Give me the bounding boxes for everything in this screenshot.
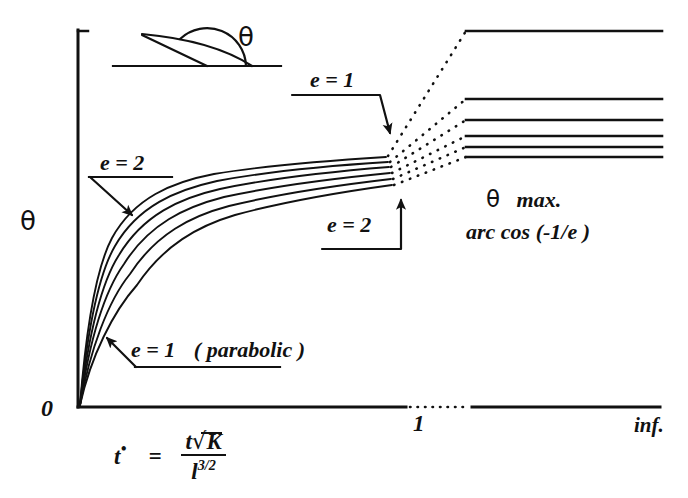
dotted-link-e-1 [388,31,466,156]
theta-max-asymptotes [466,31,662,157]
radical-bar [201,432,222,434]
x-tick-one-label: 1 [413,412,425,435]
orbital-angle-figure: θ θ 0 1 inf. e = 2 e = 1 ( parabolic ) e… [0,0,688,498]
asymptote-continuation-dots [388,31,466,185]
x-axis-formula-fraction: t√K l3/2 [181,430,225,483]
dotted-link-e-1-4 [391,120,466,167]
leader-upper-left-e2-arrow [90,177,132,215]
x-axis-formula-star: • [120,439,126,459]
x-axis-formula: t• = t√K l3/2 [114,432,226,485]
x-axis-formula-equals: = [149,444,162,469]
inset-ray-lower [142,35,207,66]
leader-upper-left-e2 [89,177,172,215]
leader-upper-right-e1 [292,95,390,133]
theta-max-caption-max: max. [517,187,562,212]
x-axis-formula-denominator: l3/2 [181,456,225,483]
leader-upper-right-e1-path [292,95,390,133]
dotted-link-e-2 [394,157,466,185]
curve-e-1-6 [80,173,390,405]
annotation-upper-left-e2: e = 2 [100,152,144,174]
inset-angle-sketch [113,28,281,66]
annotation-lower-left-e1-note: ( parabolic ) [194,337,305,362]
theta-max-caption: θ max. [486,188,561,211]
x-axis-formula-numerator: t√K [181,430,225,456]
curve-e-1-2 [80,162,388,405]
annotation-upper-right-e1: e = 1 [310,69,354,91]
x-tick-inf-label: inf. [634,415,664,436]
x-axis-formula-sqrt: √K [192,430,222,453]
x-axis-formula-denominator-exponent: 3/2 [198,457,216,473]
curve-e-1-4 [80,167,389,405]
theta-max-formula: arc cos (-1/e ) [466,221,590,243]
annotation-lower-left-e1-group: e = 1 ( parabolic ) [131,339,305,361]
theta-max-caption-theta: θ [486,186,500,212]
origin-label: 0 [41,396,53,420]
annotation-lower-left-e1: e = 1 [131,337,175,362]
annotation-lower-right-e2: e = 2 [327,214,371,236]
inset-theta-label: θ [238,24,254,50]
dotted-link-e-1-6 [392,136,466,173]
y-axis-label: θ [20,208,36,234]
